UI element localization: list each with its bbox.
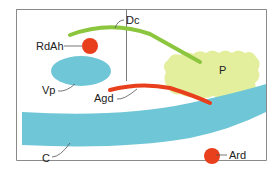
label-dc: Dc xyxy=(126,14,140,26)
agd-leader-line xyxy=(117,89,137,99)
anatomy-diagram: Dc RdAh Vp Agd P C Ard xyxy=(0,0,279,177)
label-c: C xyxy=(42,152,50,164)
ard-red-circle xyxy=(204,148,220,164)
vp-ellipse-shape xyxy=(51,56,111,86)
label-p: P xyxy=(219,64,226,76)
label-rdah: RdAh xyxy=(36,40,64,52)
label-agd: Agd xyxy=(94,92,114,104)
label-ard: Ard xyxy=(229,149,246,161)
label-vp: Vp xyxy=(42,84,55,96)
rdah-red-circle xyxy=(82,38,98,54)
